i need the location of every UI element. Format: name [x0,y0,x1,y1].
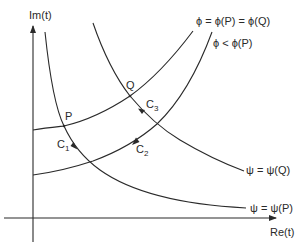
label-psi-Q: ψ = ψ(Q) [246,164,290,176]
curve-psi-P [45,32,246,208]
label-psi-P: ψ = ψ(P) [250,202,293,214]
curve-phi-level [33,31,193,130]
curve-phi-lower [33,32,212,175]
label-phi-lower: ϕ < ϕ(P) [213,37,253,49]
c3-direction-arrow-icon [138,109,145,115]
steepest-descent-diagram: Im(t) Re(t) P Q C1 C2 [0,0,307,252]
point-Q-marker [129,95,132,98]
label-phi-level: ϕ = ϕ(P) = ϕ(Q) [196,15,270,27]
svg-text:C1: C1 [57,138,70,153]
point-P-label: P [65,110,72,122]
x-axis-label: Re(t) [270,226,294,238]
point-Q-label: Q [126,79,135,91]
contour-label-C1: C1 [57,138,70,153]
y-axis-label: Im(t) [29,9,52,21]
c1-direction-arrow-icon [71,142,78,150]
svg-text:C2: C2 [136,143,149,158]
contour-label-C2: C2 [136,143,149,158]
contour-label-C3: C3 [146,98,159,113]
svg-text:C3: C3 [146,98,159,113]
point-P-marker [63,125,66,128]
